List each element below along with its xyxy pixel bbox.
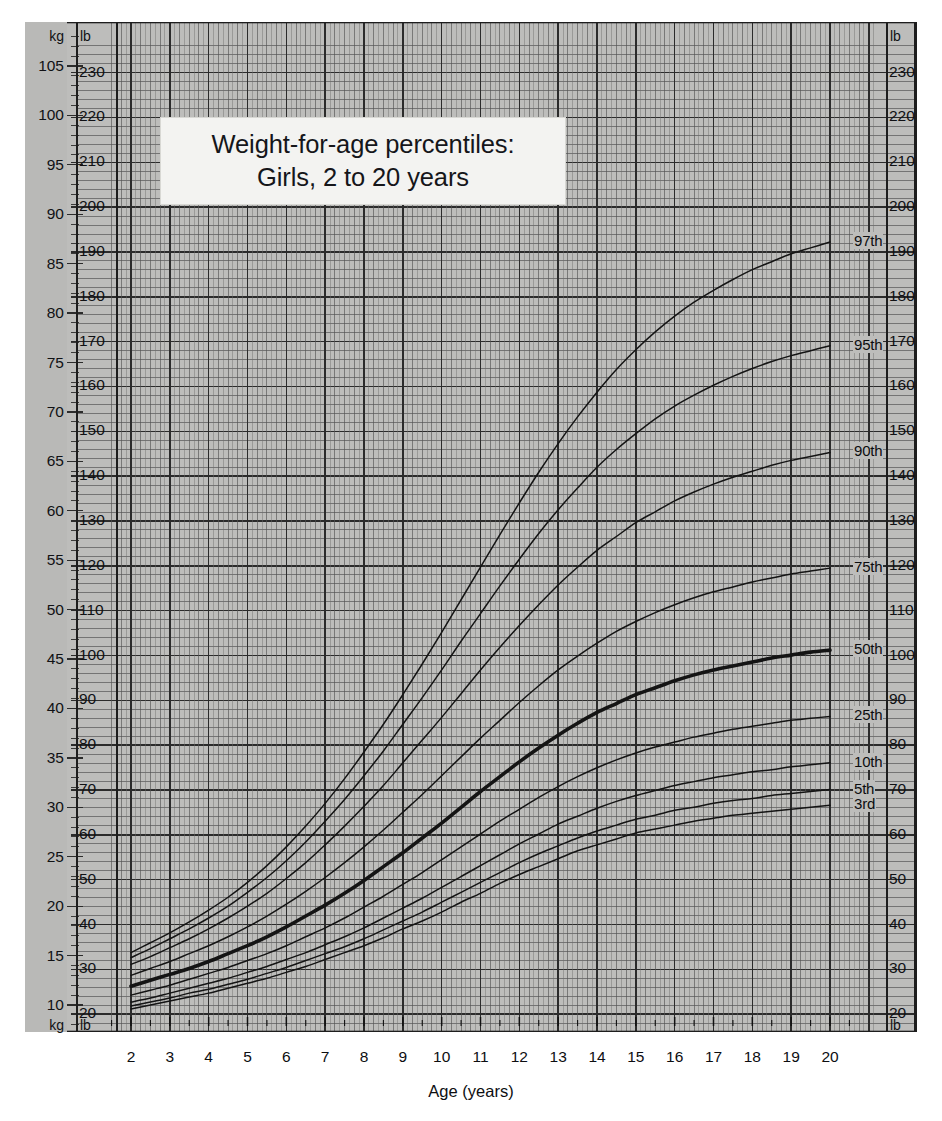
kg-tick-label-90: 90: [24, 205, 64, 223]
lb-tick-label-right-90: 90: [889, 690, 931, 708]
age-tick-label-4: 4: [194, 1048, 224, 1066]
kg-tick-label-85: 85: [24, 255, 64, 273]
lb-unit-bottom-left: lb: [80, 1017, 120, 1033]
age-tick-label-18: 18: [737, 1048, 767, 1066]
kg-tick-label-95: 95: [24, 156, 64, 174]
percentile-label-5th: 5th: [853, 780, 875, 797]
kg-tick-label-20: 20: [24, 897, 64, 915]
lb-tick-label-right-220: 220: [889, 107, 931, 125]
kg-tick-label-15: 15: [24, 947, 64, 965]
age-tick-label-5: 5: [233, 1048, 263, 1066]
age-tick-label-17: 17: [699, 1048, 729, 1066]
lb-tick-label-left-30: 30: [79, 959, 121, 977]
lb-unit-top-right: lb: [890, 28, 930, 44]
lb-tick-label-right-70: 70: [889, 780, 931, 798]
lb-tick-label-left-50: 50: [79, 870, 121, 888]
lb-tick-label-left-80: 80: [79, 735, 121, 753]
x-axis-title: Age (years): [0, 1082, 942, 1101]
lb-tick-label-right-190: 190: [889, 242, 931, 260]
kg-tick-label-55: 55: [24, 551, 64, 569]
lb-tick-label-right-50: 50: [889, 870, 931, 888]
lb-tick-label-right-60: 60: [889, 825, 931, 843]
lb-tick-label-left-210: 210: [79, 152, 121, 170]
lb-tick-label-left-180: 180: [79, 287, 121, 305]
lb-tick-label-right-120: 120: [889, 556, 931, 574]
kg-tick-label-45: 45: [24, 650, 64, 668]
kg-tick-label-40: 40: [24, 699, 64, 717]
age-tick-label-14: 14: [582, 1048, 612, 1066]
age-tick-label-10: 10: [427, 1048, 457, 1066]
chart-title-line-1: Weight-for-age percentiles:: [212, 128, 515, 161]
lb-tick-label-left-110: 110: [79, 601, 121, 619]
age-tick-label-2: 2: [116, 1048, 146, 1066]
lb-tick-label-right-80: 80: [889, 735, 931, 753]
lb-tick-label-left-140: 140: [79, 466, 121, 484]
lb-tick-label-left-160: 160: [79, 376, 121, 394]
percentile-label-97th: 97th: [853, 232, 883, 249]
lb-tick-label-left-60: 60: [79, 825, 121, 843]
age-tick-label-19: 19: [776, 1048, 806, 1066]
percentile-label-10th: 10th: [853, 753, 883, 770]
age-tick-label-15: 15: [621, 1048, 651, 1066]
lb-tick-label-left-230: 230: [79, 63, 121, 81]
kg-tick-label-35: 35: [24, 749, 64, 767]
kg-tick-label-80: 80: [24, 304, 64, 322]
age-tick-label-7: 7: [310, 1048, 340, 1066]
percentile-label-3rd: 3rd: [853, 795, 876, 812]
kg-tick-label-50: 50: [24, 601, 64, 619]
lb-tick-label-right-40: 40: [889, 915, 931, 933]
age-tick-label-20: 20: [815, 1048, 845, 1066]
age-tick-label-13: 13: [543, 1048, 573, 1066]
percentile-label-25th: 25th: [853, 706, 883, 723]
kg-unit-bottom: kg: [24, 1017, 64, 1033]
age-tick-label-11: 11: [466, 1048, 496, 1066]
percentile-label-50th: 50th: [853, 640, 883, 657]
kg-tick-label-75: 75: [24, 354, 64, 372]
lb-tick-label-left-100: 100: [79, 646, 121, 664]
age-tick-label-3: 3: [155, 1048, 185, 1066]
lb-tick-label-right-130: 130: [889, 511, 931, 529]
lb-tick-label-right-30: 30: [889, 959, 931, 977]
lb-tick-label-left-170: 170: [79, 332, 121, 350]
lb-unit-bottom-right: lb: [890, 1017, 930, 1033]
percentile-label-75th: 75th: [853, 558, 883, 575]
lb-tick-label-right-200: 200: [889, 197, 931, 215]
lb-tick-label-right-140: 140: [889, 466, 931, 484]
lb-tick-label-right-230: 230: [889, 63, 931, 81]
kg-tick-label-70: 70: [24, 403, 64, 421]
percentile-label-90th: 90th: [853, 442, 883, 459]
lb-tick-label-right-180: 180: [889, 287, 931, 305]
lb-tick-label-left-150: 150: [79, 421, 121, 439]
growth-chart-page: 1015202530354045505560657075808590951001…: [0, 0, 942, 1121]
kg-tick-label-100: 100: [24, 106, 64, 124]
chart-title-line-2: Girls, 2 to 20 years: [257, 161, 469, 194]
lb-tick-label-right-100: 100: [889, 646, 931, 664]
kg-tick-label-30: 30: [24, 798, 64, 816]
lb-tick-label-left-120: 120: [79, 556, 121, 574]
kg-tick-label-10: 10: [24, 996, 64, 1014]
kg-tick-label-65: 65: [24, 452, 64, 470]
lb-tick-label-left-190: 190: [79, 242, 121, 260]
lb-tick-label-right-210: 210: [889, 152, 931, 170]
chart-title-card: Weight-for-age percentiles: Girls, 2 to …: [160, 117, 566, 205]
kg-tick-label-25: 25: [24, 848, 64, 866]
age-tick-label-8: 8: [349, 1048, 379, 1066]
kg-tick-label-105: 105: [24, 57, 64, 75]
lb-unit-top-left: lb: [80, 28, 120, 44]
percentile-label-95th: 95th: [853, 336, 883, 353]
age-tick-label-12: 12: [504, 1048, 534, 1066]
lb-tick-label-right-150: 150: [889, 421, 931, 439]
lb-tick-label-left-40: 40: [79, 915, 121, 933]
kg-unit-top: kg: [24, 28, 64, 44]
lb-tick-label-right-170: 170: [889, 332, 931, 350]
lb-tick-label-left-200: 200: [79, 197, 121, 215]
lb-tick-label-right-160: 160: [889, 376, 931, 394]
kg-tick-label-60: 60: [24, 502, 64, 520]
lb-tick-label-left-220: 220: [79, 107, 121, 125]
age-tick-label-6: 6: [271, 1048, 301, 1066]
age-tick-label-9: 9: [388, 1048, 418, 1066]
age-tick-label-16: 16: [660, 1048, 690, 1066]
lb-tick-label-left-90: 90: [79, 690, 121, 708]
lb-tick-label-right-110: 110: [889, 601, 931, 619]
lb-tick-label-left-130: 130: [79, 511, 121, 529]
